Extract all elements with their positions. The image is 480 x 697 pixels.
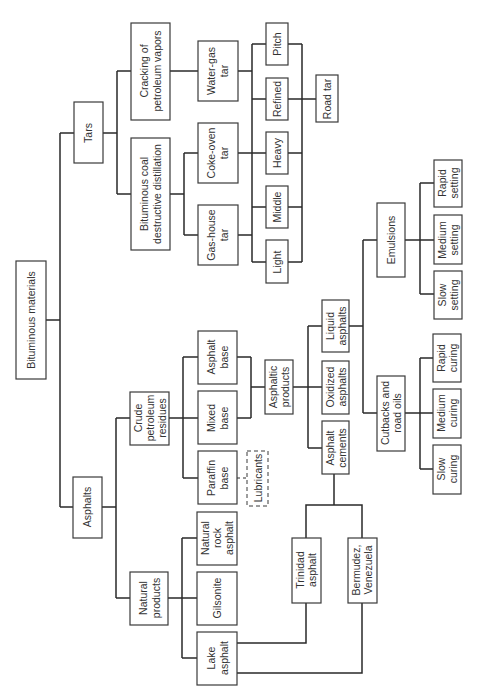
node-label: curing bbox=[447, 399, 459, 428]
node-asphalts: Asphalts bbox=[73, 477, 102, 538]
node-natural-products: Natural products bbox=[130, 572, 168, 625]
node-label: base bbox=[218, 466, 230, 489]
node-refined: Refined bbox=[266, 78, 288, 120]
node-label: Heavy bbox=[271, 137, 283, 168]
node-label: Lake bbox=[205, 646, 217, 669]
node-slow-curing: Slow curing bbox=[433, 445, 461, 494]
node-label: Light bbox=[271, 251, 283, 274]
node-label: Asphalts bbox=[81, 487, 93, 527]
node-crude-residues: Crude petroleum residues bbox=[130, 392, 169, 445]
node-rapid-curing: Rapid curing bbox=[433, 334, 461, 382]
node-label: asphalt bbox=[223, 521, 235, 555]
node-label: Crude bbox=[132, 404, 144, 433]
node-label: products bbox=[150, 578, 162, 618]
node-pitch: Pitch bbox=[266, 23, 288, 65]
node-bermudez: Bermudez, Venezuela bbox=[348, 538, 377, 603]
node-paraffin-base: Paraffin base bbox=[198, 451, 237, 504]
node-label: Cracking of bbox=[138, 44, 150, 97]
node-asphalt-cements: Asphalt cements bbox=[322, 421, 349, 474]
node-label: Slow bbox=[436, 283, 448, 306]
node-label: base bbox=[218, 406, 230, 429]
node-label: Rapid bbox=[435, 344, 447, 372]
node-asphalt-base: Asphalt base bbox=[198, 331, 237, 384]
node-water-gas-tar: Water-gas tar bbox=[198, 41, 238, 101]
node-label: Natural bbox=[137, 581, 149, 615]
node-label: Gilsonite bbox=[211, 577, 223, 618]
node-coal-distillation: Bituminous coal destructive distillation bbox=[131, 138, 170, 250]
node-label: Water-gas bbox=[205, 47, 217, 95]
node-label: Medium bbox=[436, 221, 448, 259]
node-root: Bituminous materials bbox=[16, 261, 46, 379]
node-mixed-base: Mixed base bbox=[198, 391, 237, 444]
node-label: Cutbacks and bbox=[379, 381, 391, 445]
node-cutbacks: Cutbacks and road oils bbox=[377, 376, 405, 451]
node-label: setting bbox=[448, 279, 460, 310]
node-label: Natural bbox=[199, 521, 211, 555]
node-label: rock bbox=[211, 527, 223, 548]
node-label: curing bbox=[447, 344, 459, 373]
node-label: curing bbox=[447, 455, 459, 484]
node-tars: Tars bbox=[74, 102, 103, 163]
node-label: petroleum bbox=[144, 394, 156, 441]
node-light: Light bbox=[266, 240, 288, 283]
node-label: asphalt bbox=[218, 641, 230, 675]
node-label: Liquid bbox=[324, 312, 336, 340]
node-label: Lubricants bbox=[252, 454, 264, 502]
node-lubricants: Lubricants bbox=[247, 451, 268, 506]
node-label: Road tar bbox=[321, 78, 333, 119]
node-label: Asphalt bbox=[205, 339, 217, 374]
node-label: destructive distillation bbox=[151, 144, 163, 244]
node-label: Middle bbox=[271, 191, 283, 222]
node-label: Pitch bbox=[271, 32, 283, 56]
node-road-tar: Road tar bbox=[316, 75, 338, 122]
node-label: Rapid bbox=[436, 169, 448, 197]
node-label: Coke-oven bbox=[205, 127, 217, 178]
node-oxidized-asphalts: Oxidized asphalts bbox=[322, 361, 349, 414]
node-label: Medium bbox=[435, 394, 447, 432]
node-label: Gas-house bbox=[205, 209, 217, 261]
node-label: Trinidad bbox=[294, 551, 306, 589]
node-gas-house-tar: Gas-house tar bbox=[198, 205, 238, 265]
node-asphaltic-products: Asphaltic products bbox=[265, 360, 293, 414]
node-label: Venezuela bbox=[362, 545, 374, 594]
node-label: tar bbox=[218, 228, 230, 241]
node-slow-setting: Slow setting bbox=[434, 271, 462, 319]
node-label: setting bbox=[448, 224, 460, 255]
node-label: Bituminous coal bbox=[138, 157, 150, 231]
node-label: Bermudez, bbox=[350, 545, 362, 596]
bituminous-materials-tree: Bituminous materials Tars Asphalts Crack… bbox=[0, 0, 480, 697]
node-label: Tars bbox=[82, 123, 94, 143]
node-medium-curing: Medium curing bbox=[433, 389, 461, 438]
node-label: tar bbox=[218, 146, 230, 159]
node-label: Slow bbox=[435, 457, 447, 480]
node-label: setting bbox=[448, 167, 460, 198]
node-middle: Middle bbox=[266, 186, 288, 228]
node-trinidad-asphalt: Trinidad asphalt bbox=[292, 538, 321, 603]
node-label: asphalts bbox=[336, 367, 348, 406]
node-medium-setting: Medium setting bbox=[434, 215, 462, 264]
node-cracking: Cracking of petroleum vapors bbox=[131, 23, 170, 120]
node-label: asphalt bbox=[306, 553, 318, 587]
node-emulsions: Emulsions bbox=[377, 203, 405, 277]
node-label: base bbox=[218, 345, 230, 368]
node-label: Asphaltic bbox=[267, 366, 279, 409]
node-label: Refined bbox=[271, 81, 283, 117]
node-label: Asphalt bbox=[324, 430, 336, 465]
node-label: tar bbox=[218, 64, 230, 77]
node-label: asphalts bbox=[336, 306, 348, 345]
node-lake-asphalt: Lake asphalt bbox=[197, 632, 237, 685]
node-label: Mixed bbox=[205, 404, 217, 432]
node-gilsonite: Gilsonite bbox=[197, 572, 237, 625]
node-label: Emulsions bbox=[385, 216, 397, 264]
node-label: Oxidized bbox=[324, 366, 336, 407]
node-label: residues bbox=[156, 398, 168, 438]
node-liquid-asphalts: Liquid asphalts bbox=[322, 300, 349, 352]
node-heavy: Heavy bbox=[266, 132, 288, 174]
node-rapid-setting: Rapid setting bbox=[434, 160, 462, 207]
node-natural-rock-asphalt: Natural rock asphalt bbox=[197, 512, 237, 565]
node-label: cements bbox=[336, 428, 348, 468]
node-label: road oils bbox=[391, 393, 403, 433]
node-label: products bbox=[279, 367, 291, 407]
node-label: Bituminous materials bbox=[25, 271, 37, 368]
node-coke-oven-tar: Coke-oven tar bbox=[198, 123, 238, 183]
